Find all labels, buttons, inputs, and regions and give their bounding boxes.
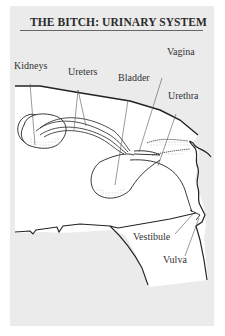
label-vestibule: Vestibule (133, 231, 170, 242)
label-bladder: Bladder (118, 72, 150, 83)
label-kidneys: Kidneys (14, 60, 47, 71)
label-vulva: Vulva (163, 254, 187, 265)
label-ureters: Ureters (68, 66, 97, 77)
label-urethra: Urethra (168, 90, 199, 101)
label-vagina: Vagina (167, 46, 195, 57)
